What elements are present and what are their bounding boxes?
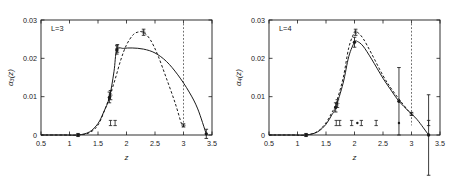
y-tick-label: 0.01 bbox=[251, 92, 265, 101]
circle-marker bbox=[353, 41, 356, 44]
data-point bbox=[409, 112, 413, 116]
x-tick-label: 1 bbox=[296, 139, 300, 148]
data-point bbox=[353, 29, 357, 35]
y-axis-title: α₄(z) bbox=[234, 69, 243, 86]
data-point bbox=[427, 95, 431, 176]
chart-panel-right: 0.511.522.533.500.010.020.03zα₄(z)L=4 bbox=[228, 0, 455, 176]
circle-marker bbox=[397, 100, 400, 103]
y-tick-label: 0.01 bbox=[23, 92, 37, 101]
chart-panel-left: 0.511.522.533.500.010.020.03zα₃(z)L=3 bbox=[0, 0, 227, 176]
data-curve-dashed bbox=[269, 31, 412, 135]
x-tick-label: 1.5 bbox=[321, 139, 331, 148]
y-tick-label: 0 bbox=[33, 131, 37, 140]
plot-svg-left: 0.511.522.533.500.010.020.03zα₃(z)L=3 bbox=[0, 0, 227, 176]
circle-marker bbox=[76, 133, 79, 136]
circle-marker bbox=[205, 132, 208, 135]
circle-marker bbox=[304, 133, 307, 136]
x-tick-label: 2.5 bbox=[378, 139, 388, 148]
data-point bbox=[181, 124, 185, 128]
x-tick-label: 3.5 bbox=[207, 139, 217, 148]
data-point bbox=[76, 133, 80, 136]
below-axis-errorbar bbox=[338, 120, 341, 125]
panel-label: L=3 bbox=[51, 24, 64, 33]
x-tick-label: 0.5 bbox=[36, 139, 46, 148]
data-point bbox=[141, 29, 145, 35]
below-axis-errorbar bbox=[109, 120, 112, 125]
x-tick-label: 3 bbox=[410, 139, 414, 148]
figure-container: 0.511.522.533.500.010.020.03zα₃(z)L=3 0.… bbox=[0, 0, 455, 176]
x-tick-label: 1.5 bbox=[93, 139, 103, 148]
y-tick-label: 0.02 bbox=[23, 54, 37, 63]
x-axis-title: z bbox=[124, 153, 129, 162]
y-axis-title: α₃(z) bbox=[6, 69, 15, 86]
below-axis-dot bbox=[356, 122, 358, 124]
below-axis-errorbar bbox=[427, 120, 430, 125]
y-tick-label: 0 bbox=[261, 131, 265, 140]
below-axis-errorbar bbox=[335, 120, 338, 125]
below-axis-errorbar bbox=[113, 120, 116, 125]
below-axis-errorbar bbox=[374, 120, 377, 125]
x-tick-label: 2 bbox=[125, 139, 129, 148]
x-tick-label: 1 bbox=[68, 139, 72, 148]
panel-label: L=4 bbox=[279, 24, 292, 33]
below-axis-errorbar bbox=[360, 120, 363, 125]
y-tick-label: 0.03 bbox=[251, 16, 265, 25]
y-tick-label: 0.03 bbox=[23, 16, 37, 25]
plot-svg-right: 0.511.522.533.500.010.020.03zα₄(z)L=4 bbox=[228, 0, 455, 176]
data-point bbox=[397, 68, 401, 135]
circle-marker bbox=[427, 133, 430, 136]
data-curve-solid bbox=[41, 48, 206, 135]
below-axis-errorbar bbox=[350, 120, 353, 125]
x-tick-label: 2.5 bbox=[150, 139, 160, 148]
x-tick-label: 2 bbox=[353, 139, 357, 148]
plot-frame bbox=[41, 20, 212, 135]
x-tick-label: 3 bbox=[182, 139, 186, 148]
below-axis-dot bbox=[398, 122, 400, 124]
x-tick-label: 3.5 bbox=[435, 139, 445, 148]
x-tick-label: 0.5 bbox=[264, 139, 274, 148]
data-curve-solid bbox=[269, 41, 429, 136]
data-point bbox=[304, 133, 308, 136]
y-tick-label: 0.02 bbox=[251, 54, 265, 63]
x-axis-title: z bbox=[352, 153, 357, 162]
